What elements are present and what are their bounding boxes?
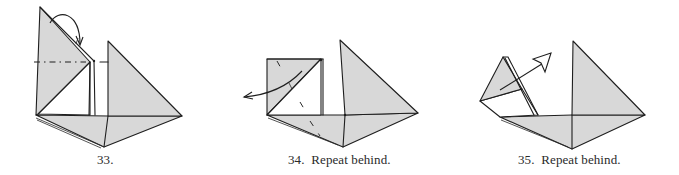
hollow-arrowhead-icon	[533, 53, 551, 72]
right-flap	[340, 40, 418, 115]
right-flap	[108, 41, 182, 116]
right-flap	[572, 41, 645, 115]
step-35-diagram	[480, 41, 645, 149]
reference-point	[344, 114, 346, 116]
step-34-diagram	[244, 40, 418, 147]
reference-point	[93, 60, 95, 62]
step-33-diagram	[34, 7, 182, 148]
diagram-canvas	[0, 0, 679, 175]
reference-point	[320, 59, 322, 61]
base-flap	[267, 113, 418, 147]
base-flap	[36, 115, 182, 147]
step-34-caption: 34. Repeat behind.	[288, 152, 391, 168]
step-33-caption: 33.	[97, 152, 114, 168]
arrowhead-icon	[244, 92, 253, 99]
origami-diagram-sequence: 33. 34. Repeat behind. 35. Repeat behind…	[0, 0, 679, 175]
step-35-caption: 35. Repeat behind.	[518, 152, 621, 168]
